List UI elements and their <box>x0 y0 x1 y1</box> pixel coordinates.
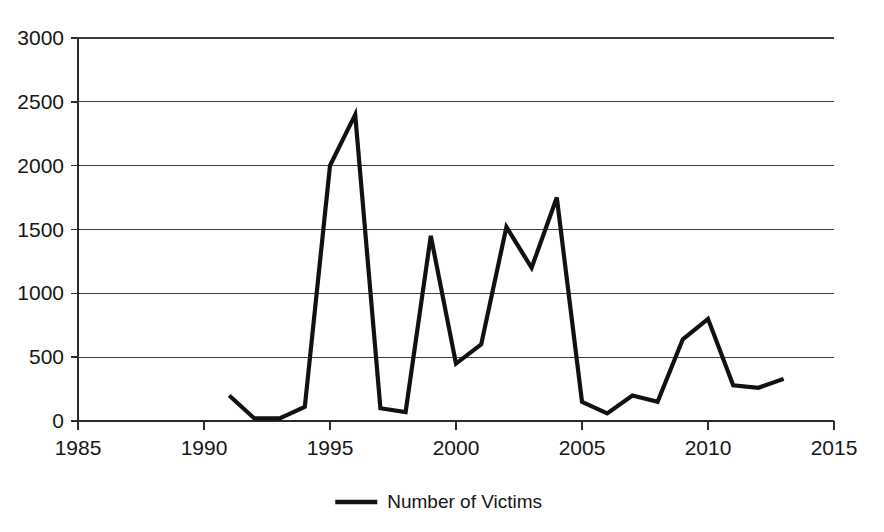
x-tick-label-2015: 2015 <box>811 436 858 459</box>
y-axis <box>71 38 78 421</box>
chart-canvas: 050010001500200025003000 198519901995200… <box>0 0 884 532</box>
y-tick-label-1000: 1000 <box>17 281 64 304</box>
y-tick-label-500: 500 <box>29 345 64 368</box>
x-tick-label-1995: 1995 <box>307 436 354 459</box>
y-tick-label-2500: 2500 <box>17 90 64 113</box>
x-axis <box>78 421 834 430</box>
x-tick-label-2010: 2010 <box>685 436 732 459</box>
data-series-group <box>229 115 783 419</box>
legend-label-0: Number of Victims <box>387 491 542 512</box>
x-tick-labels: 1985199019952000200520102015 <box>55 436 858 459</box>
x-tick-label-2005: 2005 <box>559 436 606 459</box>
line-chart: 050010001500200025003000 198519901995200… <box>0 0 884 532</box>
series-line-0 <box>229 115 783 419</box>
y-tick-label-0: 0 <box>52 409 64 432</box>
x-tick-label-1985: 1985 <box>55 436 102 459</box>
legend: Number of Victims <box>335 491 542 512</box>
x-tick-label-1990: 1990 <box>181 436 228 459</box>
y-tick-label-3000: 3000 <box>17 26 64 49</box>
y-tick-label-2000: 2000 <box>17 154 64 177</box>
x-tick-label-2000: 2000 <box>433 436 480 459</box>
y-tick-label-1500: 1500 <box>17 218 64 241</box>
y-tick-labels: 050010001500200025003000 <box>17 26 64 432</box>
